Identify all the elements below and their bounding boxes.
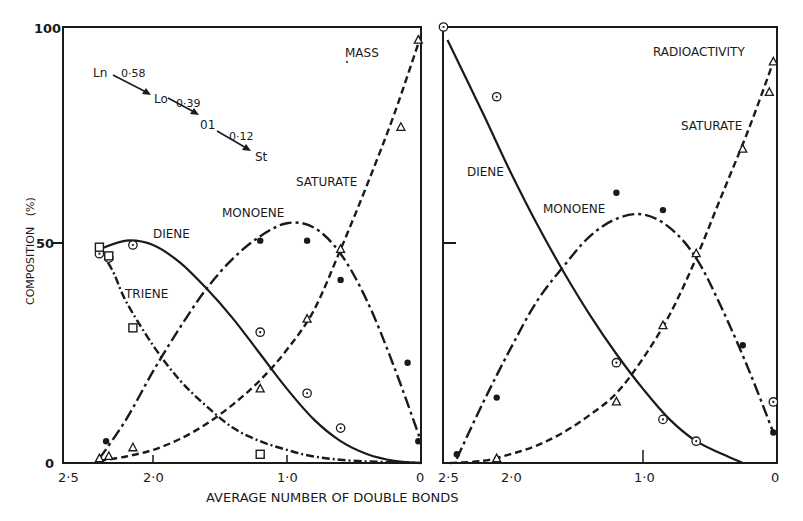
marker-dot-icon [257, 237, 263, 243]
marker-triangle-icon [105, 452, 113, 460]
left-x-tick-label-2.0: 2·0 [143, 470, 164, 485]
marker-triangle-icon [129, 443, 137, 451]
left-data-points [95, 36, 422, 462]
figure: 100 50 0 COMPOSITION (%) 2·5 2·0 1·0 0 2… [0, 0, 803, 521]
right-x-tick-label-0: 0 [771, 470, 779, 485]
marker-dot-icon [304, 237, 310, 243]
marker-circle-dot-icon [493, 93, 501, 101]
label-ol: 01 [200, 118, 215, 132]
label-right-saturate: SATURATE [681, 119, 742, 133]
marker-circle-dot-icon [692, 437, 700, 445]
label-k3: 0·12 [229, 130, 254, 143]
curve-triene [99, 249, 421, 463]
marker-dot-icon [337, 277, 343, 283]
marker-dot-icon [740, 342, 746, 348]
label-k1: 0·58 [121, 67, 146, 80]
stray-dot [346, 61, 348, 63]
left-x-tick-label-1.0: 1·0 [277, 470, 298, 485]
y-axis-title: COMPOSITION (%) [24, 197, 37, 305]
right-panel [439, 23, 777, 463]
marker-triangle-icon [337, 245, 345, 253]
label-left-diene: DIENE [153, 227, 190, 241]
marker-dot-icon [404, 360, 410, 366]
curve-monoene [99, 223, 421, 459]
arrowhead-icon [142, 88, 151, 95]
label-ln: Ln [93, 66, 107, 80]
marker-square-icon [105, 252, 113, 260]
marker-square-icon [95, 243, 103, 251]
label-left-monoene: MONOENE [222, 206, 284, 220]
curve-diene [99, 240, 421, 463]
marker-dot-icon [103, 438, 109, 444]
right-data-points [439, 23, 777, 462]
marker-dot-icon [454, 451, 460, 457]
marker-circle-dot-icon [439, 23, 447, 31]
y-tick-label-0: 0 [45, 456, 54, 471]
x-axis-title: AVERAGE NUMBER OF DOUBLE BONDS [206, 490, 459, 505]
y-tick-label-50: 50 [36, 236, 54, 251]
marker-triangle-icon [765, 88, 773, 96]
marker-circle-dot-icon [303, 389, 311, 397]
left-panel [52, 27, 422, 463]
marker-dot-icon [770, 429, 776, 435]
label-radioactivity: RADIOACTIVITY [653, 45, 745, 59]
label-left-saturate: SATURATE [296, 175, 357, 189]
right-x-tick-label-2.5: 2·5 [438, 470, 459, 485]
right-x-tick-label-2.0: 2·0 [501, 470, 522, 485]
label-left-triene: TRIENE [124, 287, 168, 301]
label-mass: MASS [345, 46, 379, 60]
marker-circle-dot-icon [129, 241, 137, 249]
marker-triangle-icon [739, 145, 747, 153]
marker-dot-icon [613, 189, 619, 195]
label-lo: Lo [154, 92, 168, 106]
figure-caption-cropped [0, 507, 803, 521]
marker-dot-icon [415, 438, 421, 444]
marker-triangle-icon [659, 321, 667, 329]
marker-circle-dot-icon [659, 415, 667, 423]
marker-circle-dot-icon [336, 424, 344, 432]
marker-square-icon [129, 324, 137, 332]
marker-circle-dot-icon [612, 359, 620, 367]
label-right-diene: DIENE [467, 165, 504, 179]
label-st: St [255, 150, 268, 164]
y-tick-label-100: 100 [34, 21, 61, 36]
marker-triangle-icon [256, 384, 264, 392]
arrowhead-icon [242, 144, 251, 151]
label-right-monoene: MONOENE [543, 202, 605, 216]
marker-dot-icon [660, 207, 666, 213]
marker-dot-icon [494, 394, 500, 400]
right-plot-frame [443, 27, 777, 463]
left-x-tick-label-0: 0 [416, 470, 424, 485]
right-x-tick-label-1.0: 1·0 [634, 470, 655, 485]
marker-circle-dot-icon [256, 328, 264, 336]
curve-saturate [99, 36, 421, 461]
left-x-tick-label-2.5: 2·5 [58, 470, 79, 485]
marker-circle-dot-icon [769, 398, 777, 406]
marker-square-icon [256, 450, 264, 458]
curve-monoene [457, 214, 774, 459]
curve-diene [447, 40, 742, 463]
marker-triangle-icon [612, 397, 620, 405]
marker-triangle-icon [397, 123, 405, 131]
left-curves [99, 36, 421, 463]
hydrogenation-scheme: Ln 0·58 Lo 0·39 01 0·12 St [93, 66, 268, 164]
